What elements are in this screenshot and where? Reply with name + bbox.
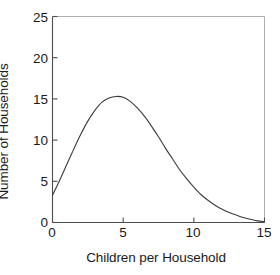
axes-group bbox=[53, 17, 265, 223]
chart-figure: Number of Households 25 20 15 10 5 0 0 5… bbox=[0, 0, 280, 275]
tick-mark-group bbox=[53, 17, 265, 223]
plot-area bbox=[0, 0, 280, 275]
data-series-line bbox=[53, 96, 265, 221]
